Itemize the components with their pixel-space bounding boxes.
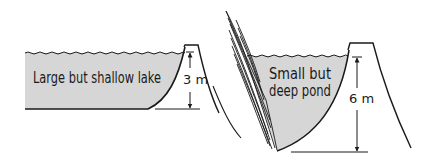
deep-pond: Small but deep pond 6 m — [226, 11, 411, 152]
pond-depth-label: 6 m — [349, 91, 374, 106]
hillside-arc — [213, 86, 241, 138]
lake-label: Large but shallow lake — [33, 69, 161, 87]
pond-label-line1: Small but — [269, 65, 331, 83]
lake-depth-label: 3 m — [183, 72, 208, 87]
shallow-lake: Large but shallow lake 3 m — [25, 45, 219, 113]
lake-vs-pond-diagram: Large but shallow lake 3 m Small but — [0, 0, 433, 162]
pond-label-line2: deep pond — [269, 82, 331, 100]
